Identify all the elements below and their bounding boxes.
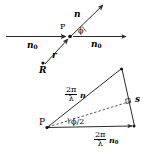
label-k-times-n: 2πλ n [65,86,86,103]
point-P-marker [68,35,72,39]
label-k-times-n0: 2πλ n0 [94,131,118,148]
bisector-dashed-line [48,102,130,128]
lower-triangle-group [45,68,135,130]
label-scattering-vector-s: s [135,95,140,104]
label-point-P-upper: P [60,23,65,31]
label-transmitted-n0-right: n0 [91,40,102,49]
triangle-side-kn0 [47,126,132,128]
label-point-P-lower: P [39,118,45,127]
fraction-2pi-over-lambda-n0: 2πλ [94,131,106,148]
triangle-vertex-P-marker [45,126,48,129]
triangle-side-s [122,69,135,126]
fraction-2pi-over-lambda-n: 2πλ [65,86,77,103]
label-scattered-vector-n: n [74,10,81,19]
label-angle-phi: ϕ [78,27,83,35]
label-incident-n0-left-sub: 0 [34,43,38,50]
phi-half-angle-arc [68,118,69,124]
label-k-times-n-vector: n [80,90,86,100]
triangle-apex-marker [120,68,123,71]
label-k-times-n0-sub: 0 [115,139,119,145]
vector-scattering-figure: n ϕ P n0 n0 r R 2πλ n s P ϕ/2 2πλ n0 [0,0,153,154]
label-r-vector: r [52,51,57,60]
label-R-vector: R [39,66,46,75]
upper-diagram-group [6,5,126,65]
label-angle-phi-half: ϕ/2 [71,118,84,126]
label-transmitted-n0-right-sub: 0 [98,42,102,49]
fraction-denominator-lambda-bottom: λ [94,140,106,148]
triangle-vertex-right-marker [133,125,136,128]
fraction-denominator-lambda: λ [65,95,77,103]
figure-lines [0,0,153,154]
label-incident-n0-left: n0 [27,41,38,50]
